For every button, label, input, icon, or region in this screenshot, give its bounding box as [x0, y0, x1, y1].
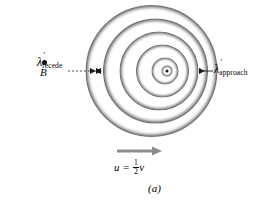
lambda-recede-subscript: recede	[42, 61, 62, 70]
wavefront-rings	[88, 8, 214, 134]
equals-sign: =	[122, 161, 129, 173]
fraction-denominator: 2	[133, 168, 139, 176]
source-speed-equation: u = 1 2 v	[114, 159, 144, 175]
lambda-symbol-recede: λ′	[37, 55, 42, 69]
source-dot	[166, 70, 169, 73]
prime-mark-recede: ′	[43, 52, 45, 60]
one-half-fraction: 1 2	[133, 159, 139, 175]
wave-speed-symbol: v	[139, 161, 144, 173]
lambda-glyph-approach: λ	[214, 62, 219, 76]
speed-variable: u	[114, 161, 120, 173]
wavefront-ring-5	[153, 59, 176, 82]
figure-caption: (a)	[148, 183, 161, 194]
lambda-glyph-recede: λ	[37, 55, 42, 69]
lambda-approach-subscript: approach	[219, 68, 247, 77]
lambda-recede-label: λ′recede	[37, 56, 62, 70]
prime-mark-approach: ′	[220, 59, 222, 67]
lambda-approach-label: λ′approach	[214, 63, 248, 77]
lambda-symbol-approach: λ′	[214, 62, 219, 76]
